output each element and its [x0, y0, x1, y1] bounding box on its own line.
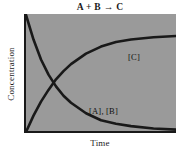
series-line-c — [26, 36, 176, 132]
series-annotation-c: [C] — [128, 52, 140, 62]
y-axis-line — [24, 14, 26, 133]
plot-area: [C] [A], [B] — [24, 14, 176, 133]
series-annotation-ab: [A], [B] — [89, 106, 118, 116]
y-axis-label: Concentration — [6, 47, 16, 101]
chart-screenshot: A + B → C Concentration [C] [A], [B] Tim… — [0, 0, 183, 155]
chart-title: A + B → C — [24, 0, 176, 14]
y-axis-label-container: Concentration — [0, 14, 22, 133]
x-axis-label: Time — [24, 136, 176, 150]
x-axis-line — [24, 131, 176, 133]
